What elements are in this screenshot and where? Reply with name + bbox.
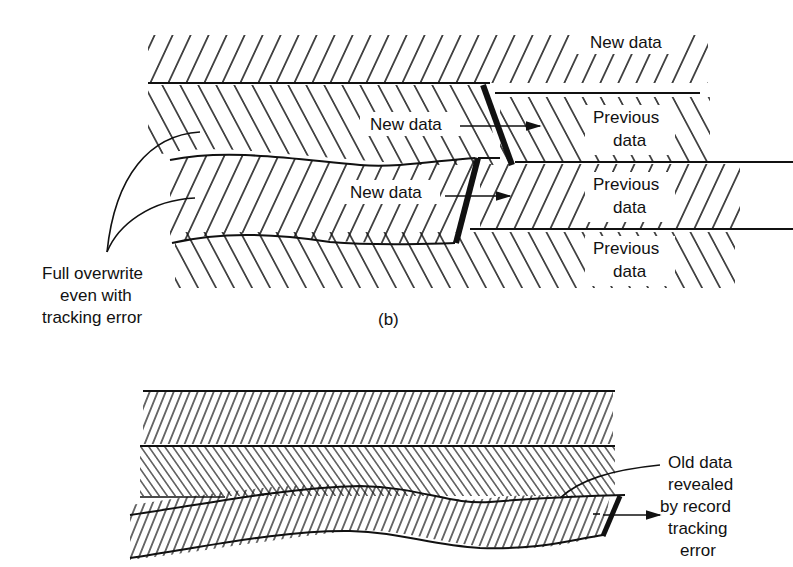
annotation-old-data-5: error [680,541,716,560]
track-c-new-wavy [130,485,610,560]
annotation-old-data-1: Old data [668,453,733,472]
label-previous-3: Previous [593,239,659,258]
label-previous-1-data: data [613,131,647,150]
figure-caption-b: (b) [378,310,399,329]
annotation-old-data-4: tracking [668,519,728,538]
annotation-full-overwrite-3: tracking error [42,308,142,327]
annotation-full-overwrite-2: even with [60,286,132,305]
figure-b: New data New data New data Previous data… [42,28,793,329]
label-previous-2-data: data [613,198,647,217]
figure-c: Old data revealed by record tracking err… [130,391,733,560]
track-c-top [143,392,613,444]
annotation-old-data-2: revealed [668,475,733,494]
label-previous-3-data: data [613,262,647,281]
annotation-full-overwrite-1: Full overwrite [42,264,143,283]
label-new-data-lower: New data [350,183,422,202]
label-new-data-top: New data [590,33,662,52]
label-previous-1: Previous [593,108,659,127]
label-new-data-upper: New data [370,115,442,134]
annotation-old-data-3: by record [660,497,731,516]
recording-diagram: New data New data New data Previous data… [0,0,793,567]
label-previous-2: Previous [593,175,659,194]
